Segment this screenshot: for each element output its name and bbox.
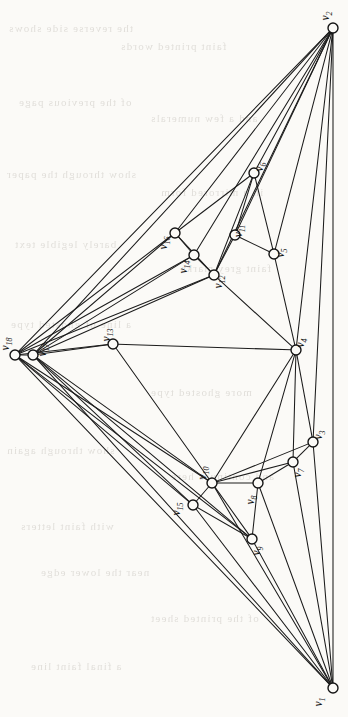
node-label-sub-v7: 7 bbox=[297, 467, 306, 472]
node-label-v16: v16 bbox=[157, 236, 172, 249]
graph-edge bbox=[216, 239, 232, 270]
graph-node-v9[interactable]: v9 bbox=[247, 534, 265, 556]
graph-edge bbox=[197, 32, 331, 250]
graph-edge bbox=[275, 259, 295, 345]
graph-node-v2[interactable]: v2 bbox=[319, 11, 338, 33]
node-label-sub-v16: 16 bbox=[163, 236, 172, 244]
node-label-sub-v2: 2 bbox=[325, 11, 334, 15]
graph-node-v7[interactable]: v7 bbox=[288, 457, 306, 478]
node-label-v7: v7 bbox=[291, 467, 306, 477]
graph-edge bbox=[297, 355, 312, 437]
graph-edge bbox=[19, 236, 171, 352]
node-label-v4: v4 bbox=[294, 338, 309, 347]
graph-node-v1[interactable]: v1 bbox=[312, 683, 338, 707]
node-circle-v9[interactable] bbox=[247, 534, 257, 544]
node-circle-v1[interactable] bbox=[328, 683, 338, 693]
graph-canvas: v1v2v3v4v5v6v7v8v9v10v11v12v13v14v15v16v… bbox=[0, 0, 348, 717]
graph-edge bbox=[215, 354, 294, 479]
graph-edge bbox=[118, 344, 291, 350]
node-circle-v14[interactable] bbox=[189, 250, 199, 260]
node-label-v3: v3 bbox=[312, 430, 327, 439]
graph-edge bbox=[37, 258, 190, 353]
graph-edge bbox=[260, 488, 332, 684]
graph-edge bbox=[218, 278, 293, 346]
graph-figure: the reverse side showsfaint printed word… bbox=[0, 0, 348, 717]
graph-node-v14[interactable]: v14 bbox=[177, 250, 199, 274]
graph-edge bbox=[18, 359, 329, 685]
graph-edge bbox=[37, 358, 190, 501]
node-label-v1: v1 bbox=[312, 697, 327, 706]
graph-edge bbox=[18, 32, 329, 352]
graph-edge bbox=[37, 358, 208, 480]
node-circle-v15[interactable] bbox=[188, 500, 198, 510]
graph-edge bbox=[297, 33, 333, 345]
graph-node-v5[interactable]: v5 bbox=[269, 248, 289, 259]
graph-edge bbox=[38, 277, 210, 353]
graph-node-v16[interactable]: v16 bbox=[157, 228, 180, 250]
graph-edge bbox=[216, 178, 252, 271]
graph-node-v18[interactable]: v18 bbox=[0, 337, 20, 360]
graph-edge bbox=[196, 509, 330, 684]
graph-edge bbox=[19, 358, 208, 481]
node-label-sub-v6: 6 bbox=[259, 162, 268, 166]
node-label-sub-v10: 10 bbox=[202, 466, 211, 474]
node-label-v18: v18 bbox=[0, 337, 14, 350]
graph-edge bbox=[19, 358, 189, 502]
node-label-v14: v14 bbox=[177, 260, 192, 273]
node-label-sub-v4: 4 bbox=[300, 338, 309, 342]
node-label-v9: v9 bbox=[250, 546, 265, 555]
graph-edge bbox=[116, 348, 209, 479]
graph-edge bbox=[19, 358, 248, 536]
node-label-v8: v8 bbox=[244, 495, 259, 504]
node-label-sub-v5: 5 bbox=[280, 248, 289, 252]
graph-edge bbox=[239, 237, 269, 252]
graph-edge bbox=[37, 236, 171, 351]
graph-edge bbox=[293, 355, 296, 457]
node-circle-v2[interactable] bbox=[328, 23, 338, 33]
graph-node-v15[interactable]: v15 bbox=[170, 500, 198, 516]
graph-edge bbox=[275, 33, 331, 249]
graph-edge bbox=[178, 237, 190, 251]
node-label-sub-v11: 11 bbox=[238, 225, 247, 232]
node-label-sub-v9: 9 bbox=[256, 546, 265, 550]
graph-edge bbox=[255, 178, 273, 249]
node-group: v1v2v3v4v5v6v7v8v9v10v11v12v13v14v15v16v… bbox=[0, 11, 338, 706]
node-label-sub-v13: 13 bbox=[106, 328, 115, 336]
node-circle-v7[interactable] bbox=[288, 457, 298, 467]
node-label-sub-v18: 18 bbox=[5, 337, 14, 345]
graph-edge bbox=[313, 447, 332, 683]
graph-edge bbox=[215, 487, 331, 683]
node-circle-v18[interactable] bbox=[10, 350, 20, 360]
graph-edge bbox=[253, 488, 258, 534]
edge-group bbox=[18, 32, 333, 685]
node-label-sub-v8: 8 bbox=[250, 495, 259, 499]
node-label-sub-v3: 3 bbox=[318, 430, 327, 435]
node-label-sub-v17: 17 bbox=[42, 342, 51, 351]
node-label-sub-v15: 15 bbox=[176, 502, 185, 510]
node-circle-v8[interactable] bbox=[253, 478, 263, 488]
node-label-sub-v14: 14 bbox=[183, 260, 192, 268]
graph-node-v12[interactable]: v12 bbox=[209, 270, 227, 289]
node-label-v2: v2 bbox=[319, 11, 334, 20]
node-label-sub-v1: 1 bbox=[318, 697, 327, 701]
node-label-sub-v12: 12 bbox=[218, 275, 227, 283]
node-circle-v10[interactable] bbox=[207, 478, 217, 488]
graph-node-v10[interactable]: v10 bbox=[196, 466, 217, 488]
graph-edge bbox=[178, 32, 330, 229]
graph-node-v8[interactable]: v8 bbox=[244, 478, 263, 505]
graph-edge bbox=[36, 359, 329, 685]
